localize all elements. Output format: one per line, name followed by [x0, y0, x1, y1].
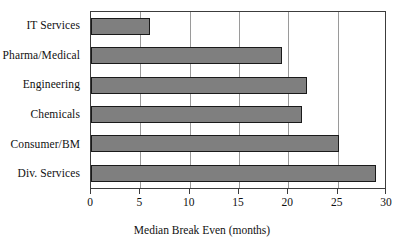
x-axis-tick: [189, 189, 190, 194]
bar-row: [91, 12, 385, 41]
x-axis-tick: [385, 189, 386, 194]
x-axis-tick-label: 15: [232, 195, 244, 209]
category-label: Div. Services: [0, 159, 86, 189]
bar-series: [91, 12, 385, 188]
category-axis-labels: IT Services Pharma/Medical Engineering C…: [0, 11, 86, 189]
plot-area: [90, 11, 386, 189]
bar: [91, 106, 302, 123]
x-axis-tick: [139, 189, 140, 194]
x-axis-tick: [337, 189, 338, 194]
category-label: IT Services: [0, 11, 86, 41]
x-axis-tick-label: 5: [136, 195, 142, 209]
bar-row: [91, 71, 385, 100]
bar-row: [91, 159, 385, 188]
x-axis-tick-label: 30: [380, 195, 392, 209]
category-label: Pharma/Medical: [0, 41, 86, 71]
bar-row: [91, 129, 385, 158]
bar: [91, 165, 376, 182]
bar: [91, 135, 339, 152]
x-axis-tick-label: 10: [183, 195, 195, 209]
x-axis-tick-labels: 051015202530: [0, 195, 404, 211]
bar: [91, 47, 282, 64]
x-axis-title: Median Break Even (months): [0, 223, 404, 237]
x-axis-tick-marks: [90, 189, 386, 194]
x-axis-tick-label: 0: [87, 195, 93, 209]
bar: [91, 77, 307, 94]
bar: [91, 18, 150, 35]
bar-row: [91, 100, 385, 129]
category-label: Consumer/BM: [0, 130, 86, 160]
x-axis-tick: [90, 189, 91, 194]
category-label: Engineering: [0, 70, 86, 100]
bar-chart: IT Services Pharma/Medical Engineering C…: [0, 0, 404, 251]
x-axis-tick: [238, 189, 239, 194]
bar-row: [91, 41, 385, 70]
category-label: Chemicals: [0, 100, 86, 130]
x-axis-tick: [287, 189, 288, 194]
x-axis-tick-label: 25: [331, 195, 343, 209]
x-axis-tick-label: 20: [282, 195, 294, 209]
